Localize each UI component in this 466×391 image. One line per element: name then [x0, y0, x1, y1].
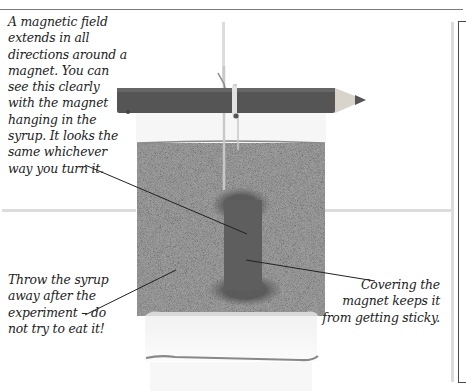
caption-throw-away-syrup: Throw the syrup away after the experimen… [8, 272, 118, 337]
caption-magnetic-field: A magnetic field extends in all directio… [8, 14, 128, 177]
caption-covering-magnet: Covering the magnet keeps it from gettin… [320, 277, 440, 326]
